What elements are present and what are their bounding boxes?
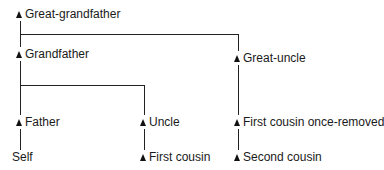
node-first-cousin: First cousin: [140, 150, 210, 164]
connector-great-uncle-to-cousin-removed: [238, 64, 239, 116]
triangle-marker-icon: [140, 119, 146, 126]
node-uncle: Uncle: [140, 115, 180, 129]
node-label: Father: [25, 115, 60, 129]
connector-uncle-trunk: [144, 85, 145, 115]
node-label: Grandfather: [25, 47, 89, 61]
node-great-grandfather: Great-grandfather: [16, 7, 120, 21]
triangle-marker-icon: [140, 154, 146, 161]
connector-grandfather-branch: [20, 85, 145, 86]
node-label: First cousin once-removed: [243, 115, 384, 129]
node-label: Second cousin: [243, 150, 322, 164]
triangle-marker-icon: [16, 51, 22, 58]
node-father: Father: [16, 115, 60, 129]
node-first-cousin-once-removed: First cousin once-removed: [234, 115, 384, 129]
triangle-marker-icon: [234, 119, 240, 126]
node-label: Great-uncle: [243, 51, 306, 65]
node-great-uncle: Great-uncle: [234, 51, 306, 65]
node-grandfather: Grandfather: [16, 47, 89, 61]
triangle-marker-icon: [234, 154, 240, 161]
triangle-marker-icon: [16, 119, 22, 126]
node-label: Great-grandfather: [25, 7, 120, 21]
triangle-marker-icon: [16, 11, 22, 18]
connector-cousin-removed-to-second-cousin: [238, 126, 239, 150]
triangle-marker-icon: [234, 55, 240, 62]
node-second-cousin: Second cousin: [234, 150, 322, 164]
node-label: Uncle: [149, 115, 180, 129]
node-label: Self: [12, 150, 33, 164]
connector-great-grandfather-branch: [20, 34, 239, 35]
node-label: First cousin: [149, 150, 210, 164]
connector-great-uncle-trunk: [238, 34, 239, 52]
node-self: Self: [12, 150, 33, 164]
connector-uncle-to-first-cousin: [144, 126, 145, 150]
